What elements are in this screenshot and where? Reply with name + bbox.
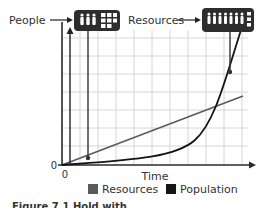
people-icon-box	[74, 10, 120, 31]
people-marker	[86, 156, 90, 160]
legend-swatch-population	[166, 184, 176, 194]
x-axis-arrow-icon	[249, 162, 256, 169]
up-arrow-icon	[67, 27, 74, 34]
x-axis-zero: 0	[62, 169, 68, 180]
figure-caption: Figure 7.1 Hold with...	[12, 201, 138, 208]
person-icon	[80, 13, 95, 25]
legend: Resources Population	[88, 183, 238, 196]
resources-label: Resources	[128, 14, 184, 27]
chart-canvas: People Resources	[0, 0, 257, 208]
legend-label-resources: Resources	[102, 183, 158, 196]
crowd-icon-box	[202, 8, 254, 32]
right-arrow-icon	[195, 17, 201, 23]
resource-box-icon	[247, 12, 251, 27]
people-label: People	[9, 14, 46, 27]
y-axis-zero: 0	[51, 160, 57, 171]
legend-swatch-resources	[88, 184, 98, 194]
resources-marker	[228, 70, 232, 74]
legend-label-population: Population	[180, 183, 238, 196]
x-axis-title: Time	[141, 170, 169, 183]
right-arrow-icon	[67, 17, 73, 23]
